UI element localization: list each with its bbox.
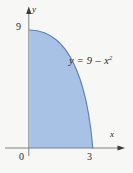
- x-tick-label-3: 3: [87, 152, 92, 162]
- equation-lhs: y: [69, 55, 74, 66]
- x-tick-label-0: 0: [19, 152, 24, 162]
- x-axis-arrow-icon: [118, 145, 126, 150]
- y-tick-label-9: 9: [16, 22, 21, 32]
- curve-equation-label: y = 9 – x2: [69, 56, 113, 67]
- parabola-area-figure: y x 9 0 3 y = 9 – x2: [0, 0, 133, 173]
- y-axis-label: y: [32, 5, 36, 14]
- y-axis-arrow-icon: [26, 7, 31, 15]
- x-axis-label: x: [110, 130, 114, 139]
- equation-equals: =: [77, 55, 84, 66]
- equation-exponent: 2: [109, 54, 112, 61]
- equation-constant: 9: [87, 55, 92, 66]
- equation-minus: –: [95, 55, 101, 66]
